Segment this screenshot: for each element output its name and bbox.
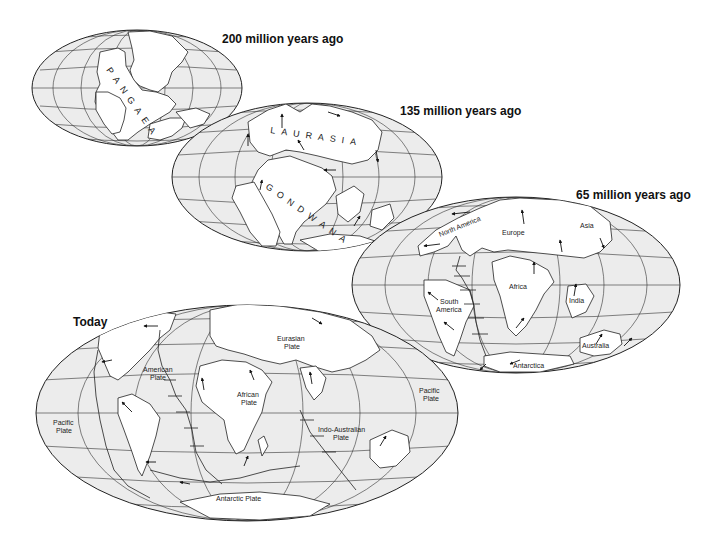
maps-canvas: PANGAEA <box>0 0 712 543</box>
indo-australian-plate-label-line1: Indo-Australian <box>318 426 365 433</box>
title-135-million-years-ago: 135 million years ago <box>400 104 521 118</box>
pacific-plate-east-label-line2: Plate <box>423 395 439 402</box>
europe-label: Europe <box>502 229 525 237</box>
eurasian-plate-label-line1: Eurasian <box>277 335 305 342</box>
australia-label: Australia <box>582 342 609 349</box>
african-plate-label-line1: African <box>237 391 259 398</box>
map-today: Eurasian Plate American Plate African Pl… <box>34 304 460 521</box>
pacific-plate-east-label-line1: Pacific <box>419 387 440 394</box>
african-plate-label-line2: Plate <box>241 399 257 406</box>
eurasian-plate-label-line2: Plate <box>284 343 300 350</box>
africa-label: Africa <box>509 283 527 290</box>
american-plate-label-line1: American <box>143 366 173 373</box>
south-america-label-line1: South <box>440 298 458 305</box>
antarctic-plate-label: Antarctic Plate <box>216 495 261 502</box>
title-65-million-years-ago: 65 million years ago <box>576 188 691 202</box>
title-200-million-years-ago: 200 million years ago <box>222 32 343 46</box>
indo-australian-plate-label-line2: Plate <box>333 434 349 441</box>
pacific-plate-west-label-line1: Pacific <box>53 419 74 426</box>
american-plate-label-line2: Plate <box>150 374 166 381</box>
asia-label: Asia <box>580 222 594 229</box>
continental-drift-figure: PANGAEA <box>0 0 712 543</box>
pacific-plate-west-label-line2: Plate <box>56 427 72 434</box>
south-america-label-line2: America <box>436 306 462 313</box>
title-today: Today <box>73 315 107 329</box>
india-label: India <box>569 297 584 304</box>
antarctica-label: Antarctica <box>513 362 544 369</box>
